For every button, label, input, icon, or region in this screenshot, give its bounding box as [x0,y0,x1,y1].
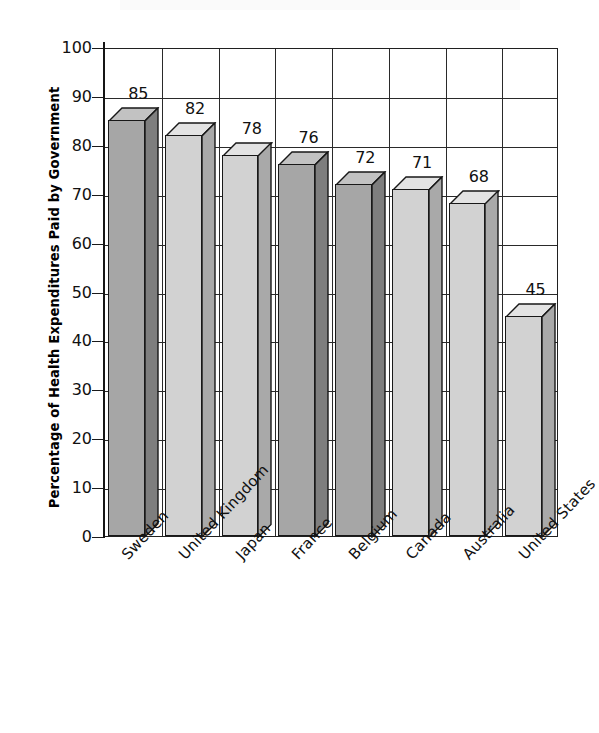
y-axis-tick-mark [92,341,103,342]
y-axis-tick-mark [92,48,103,49]
y-axis-tick-mark [92,537,103,538]
bar-front-face [165,135,202,536]
bar-side-face [428,176,443,538]
gridline-vertical [275,49,276,536]
y-axis-tick-mark [92,244,103,245]
y-axis-tick-label: 100 [46,37,92,59]
bar-front-face [335,184,372,536]
y-axis-spine [103,42,105,538]
bar-front-face [108,120,145,536]
gridline-vertical [162,49,163,536]
bar-value-label: 71 [404,153,441,172]
bar-side-face [371,171,386,538]
y-axis-tick-label: 60 [46,233,92,255]
y-axis-tick-mark [92,293,103,294]
bar-value-label: 72 [347,148,384,167]
bar-value-label: 76 [290,128,327,147]
gridline-vertical [332,49,333,536]
bar-front-face [278,164,315,536]
y-axis-tick-mark [92,195,103,196]
bar-australia [449,190,499,536]
bar-side-face [144,107,159,538]
bar-side-face [484,190,499,538]
y-axis-tick-mark [92,146,103,147]
y-axis-tick-label: 90 [46,86,92,108]
bar-side-face [541,303,556,538]
bar-side-face [201,122,216,538]
gridline-vertical [219,49,220,536]
gridline-vertical [502,49,503,536]
bar-united-states [505,303,555,536]
plot-area [104,48,558,537]
bar-france [278,151,328,536]
y-axis-tick-label: 80 [46,135,92,157]
y-axis-tick-mark [92,439,103,440]
gridline-horizontal [105,98,557,99]
y-axis-tick-label: 70 [46,184,92,206]
bar-united-kingdom [165,122,215,536]
y-axis-tick-mark [92,488,103,489]
y-axis-tick-mark [92,390,103,391]
cropped-title-remnant [120,0,520,10]
y-axis-tick-label: 50 [46,282,92,304]
bar-sweden [108,107,158,536]
bar-value-label: 68 [461,167,498,186]
bar-belgium [335,171,385,536]
y-axis-tick-labels: 1009080706050403020100 [44,0,92,733]
y-axis-tick-label: 30 [46,379,92,401]
bar-front-face [392,189,429,536]
gridline-vertical [389,49,390,536]
bar-side-face [314,151,329,538]
bar-value-label: 78 [234,119,271,138]
y-axis-tick-label: 10 [46,477,92,499]
bar-canada [392,176,442,536]
y-axis-tick-label: 20 [46,428,92,450]
bar-front-face [449,203,486,536]
gridline-vertical [446,49,447,536]
bar-value-label: 85 [120,84,157,103]
y-axis-tick-label: 0 [46,526,92,548]
bar-value-label: 82 [177,99,214,118]
y-axis-tick-mark [92,97,103,98]
y-axis-tick-label: 40 [46,330,92,352]
bar-value-label: 45 [517,280,554,299]
bar-front-face [505,316,542,536]
